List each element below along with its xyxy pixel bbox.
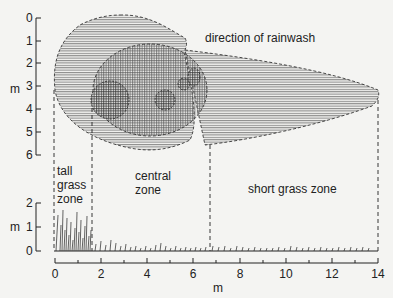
svg-text:1: 1 xyxy=(26,220,33,234)
svg-text:14: 14 xyxy=(371,267,385,281)
tussock-large xyxy=(91,81,129,119)
svg-text:0: 0 xyxy=(26,244,33,258)
label-grass: grass xyxy=(57,178,86,192)
svg-text:2: 2 xyxy=(26,196,33,210)
rainwash-label: direction of rainwash xyxy=(205,31,315,45)
tussock-medium xyxy=(155,90,175,110)
label-short-grass: short grass zone xyxy=(248,182,337,196)
svg-text:0: 0 xyxy=(26,11,33,25)
diagram-canvas: direction of rainwash 0 1 2 3 4 5 6 m ta… xyxy=(0,0,393,298)
top-y-label: m xyxy=(10,82,20,96)
plan-view: direction of rainwash 0 1 2 3 4 5 6 m xyxy=(10,11,379,162)
label-central: central xyxy=(135,169,171,183)
label-zone1: zone xyxy=(57,192,83,206)
tussock-small-2 xyxy=(188,68,200,86)
x-axis: 0 2 4 6 8 10 12 14 m xyxy=(52,258,385,295)
svg-text:0: 0 xyxy=(52,267,59,281)
profile-y-label: m xyxy=(10,220,20,234)
svg-text:4: 4 xyxy=(26,102,33,116)
tussock-small-1 xyxy=(178,78,190,90)
svg-text:1: 1 xyxy=(26,34,33,48)
svg-text:4: 4 xyxy=(144,267,151,281)
svg-text:2: 2 xyxy=(26,56,33,70)
svg-text:3: 3 xyxy=(26,79,33,93)
svg-text:5: 5 xyxy=(26,125,33,139)
x-axis-label: m xyxy=(213,281,223,295)
svg-text:6: 6 xyxy=(26,148,33,162)
vegetation xyxy=(56,210,369,251)
label-tall: tall xyxy=(57,164,72,178)
svg-text:6: 6 xyxy=(190,267,197,281)
svg-text:2: 2 xyxy=(98,267,105,281)
svg-text:12: 12 xyxy=(325,267,339,281)
top-y-ticks: 0 1 2 3 4 5 6 xyxy=(26,11,41,162)
label-zone2: zone xyxy=(135,183,161,197)
rainwash-tail xyxy=(185,50,379,145)
svg-text:10: 10 xyxy=(279,267,293,281)
svg-text:8: 8 xyxy=(237,267,244,281)
